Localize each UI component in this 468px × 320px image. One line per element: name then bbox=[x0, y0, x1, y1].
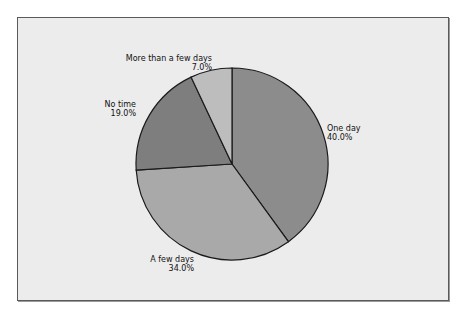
label-no-time: No time 19.0% bbox=[100, 100, 136, 118]
label-no-time-pct: 19.0% bbox=[100, 109, 136, 118]
label-a-few-days: A few days 34.0% bbox=[150, 255, 194, 273]
pie-chart bbox=[0, 0, 468, 320]
label-a-few-days-name: A few days bbox=[150, 255, 194, 264]
label-more-days-pct: 7.0% bbox=[120, 63, 212, 72]
label-more-days-name: More than a few days bbox=[120, 54, 212, 63]
label-one-day-name: One day bbox=[327, 124, 361, 133]
label-one-day: One day 40.0% bbox=[327, 124, 361, 142]
label-a-few-days-pct: 34.0% bbox=[150, 264, 194, 273]
label-one-day-pct: 40.0% bbox=[327, 133, 361, 142]
label-no-time-name: No time bbox=[100, 100, 136, 109]
label-more-than-a-few-days: More than a few days 7.0% bbox=[120, 54, 212, 72]
